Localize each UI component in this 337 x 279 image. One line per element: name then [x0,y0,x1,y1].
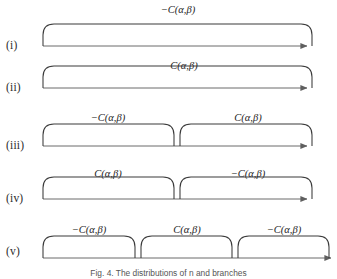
row-label-v: (v) [6,245,40,257]
row-label-iv: (iv) [6,192,40,204]
row-label-ii: (ii) [6,81,40,93]
arch-v-1 [43,236,135,258]
figure-lines-layer [0,0,337,279]
row-i-graphics [43,24,312,46]
row-label-i: (i) [6,39,40,51]
row-v-graphics [43,236,331,258]
segment-label-iii-1: −C(α,β) [91,112,125,123]
arch-v-2 [141,236,232,258]
row-label-iii: (iii) [6,139,40,151]
segment-label-v-1: −C(α,β) [72,224,106,235]
row-iii-graphics [43,124,312,146]
arch-iv-2 [180,177,312,199]
segment-label-v-2: C(α,β) [173,224,200,235]
figure-container: (i) (ii) (iii) (iv) (v) −C(α,β) C(α,β) −… [0,0,337,279]
segment-label-v-3: −C(α,β) [267,224,301,235]
arch-iv-1 [43,177,174,199]
segment-label-ii-1: C(α,β) [170,60,197,71]
arch-iii-1 [43,124,174,146]
segment-label-i-1: −C(α,β) [161,4,195,15]
segment-label-iv-2: −C(α,β) [231,168,265,179]
figure-caption: Fig. 4. The distributions of n and branc… [0,268,337,278]
segment-label-iv-1: C(α,β) [94,168,121,179]
row-iv-graphics [43,177,312,199]
arch-v-3 [238,236,329,258]
arch-iii-2 [180,124,312,146]
segment-label-iii-2: C(α,β) [234,112,261,123]
arch-i-1 [43,24,312,46]
